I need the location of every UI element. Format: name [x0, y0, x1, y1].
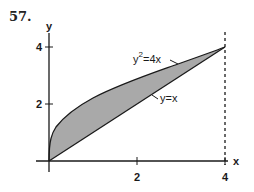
y-axis-label: y: [46, 20, 53, 32]
tick-label-y-2: 2: [36, 98, 42, 110]
line-label: y=x: [160, 92, 178, 104]
tick-label-x-2: 2: [134, 171, 140, 183]
tick-label-x-4: 4: [222, 171, 229, 183]
tick-label-y-4: 4: [36, 41, 43, 53]
x-axis-label: x: [233, 155, 240, 167]
line-leader: [152, 95, 158, 99]
parabola-leader: [170, 60, 178, 64]
parabola-label: y2=4x: [133, 50, 161, 65]
graph: 2 4 4 2 x y y2=4x y=x: [0, 0, 254, 192]
